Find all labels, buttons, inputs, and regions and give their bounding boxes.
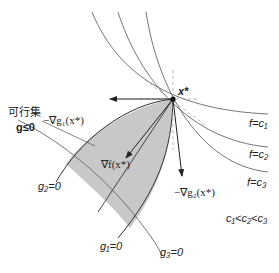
vector-label-grad-f: ∇f(x*) (100, 158, 130, 171)
feasible-set-label-math: g≤0 (16, 121, 35, 133)
optimum-label: x* (177, 85, 189, 97)
level-label-c3: f=c₃ (247, 176, 267, 188)
level-label-c2: f=c₂ (249, 148, 269, 160)
constraint-label-g2: g₂=0 (38, 180, 62, 192)
constraint-label-g1: g₁=0 (100, 240, 123, 252)
feasible-set-label-jp: 可行集 (8, 105, 41, 118)
optimum-point (170, 96, 175, 101)
kkt-diagram: x* −∇g₁(x*) −∇g₂(x*) ∇f(x*) 可行集 g≤0 g₂=0… (0, 0, 279, 273)
vector-label-neg-grad-g2: −∇g₂(x*) (174, 186, 215, 199)
vector-label-neg-grad-g1: −∇g₁(x*) (43, 114, 84, 127)
ordering-note: c₁<c₂<c₃ (226, 212, 268, 224)
level-label-c1: f=c₁ (249, 117, 268, 129)
constraint-label-g3: g₃=0 (160, 246, 184, 258)
